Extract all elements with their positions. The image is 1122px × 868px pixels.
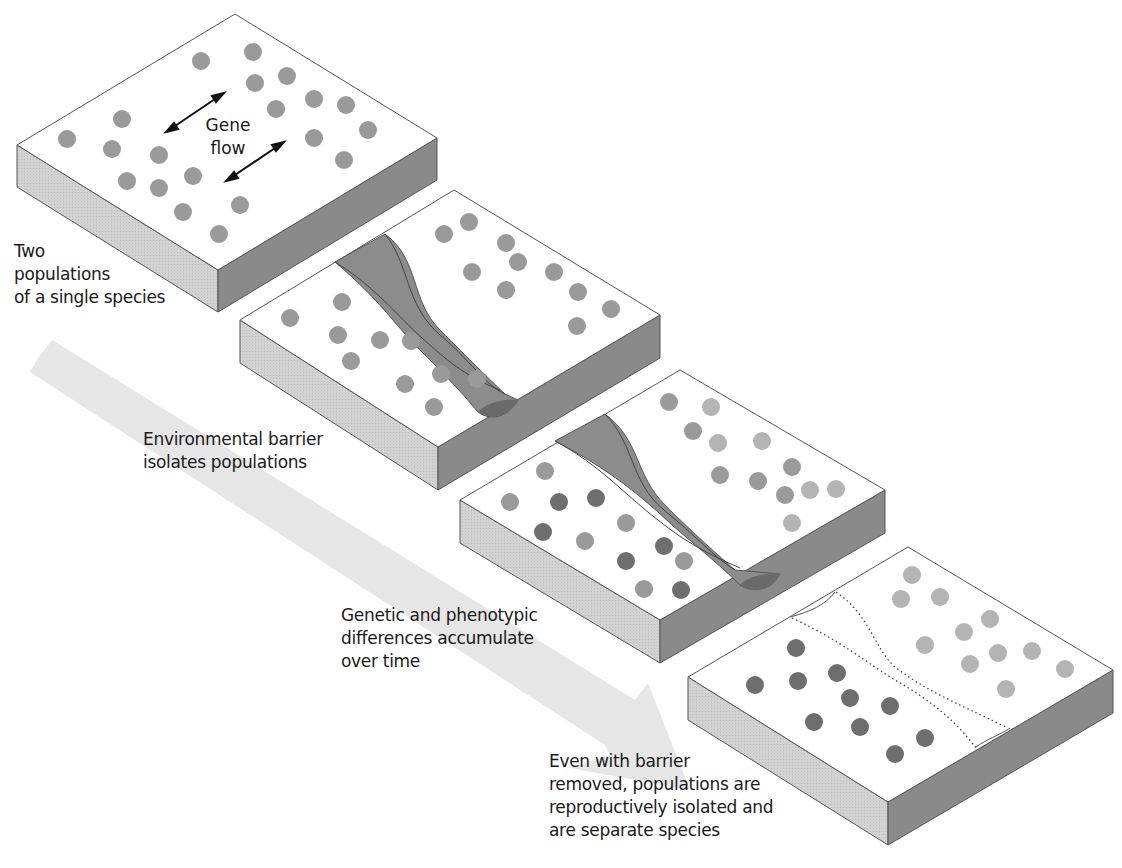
stage-1-label: Two populations of a single species (14, 240, 165, 309)
stage-3-label: Genetic and phenotypic differences accum… (341, 604, 538, 673)
stage-2-label: Environmental barrier isolates populatio… (143, 428, 323, 474)
stage-4-label: Even with barrier removed, populations a… (549, 750, 773, 842)
gene-flow-label: Gene flow (196, 114, 260, 160)
